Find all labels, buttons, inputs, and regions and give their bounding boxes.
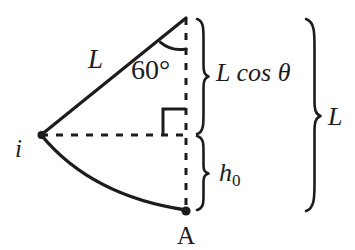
pendulum-swing-arc bbox=[42, 136, 186, 210]
label-h0-subscript: 0 bbox=[232, 171, 241, 190]
right-angle-marker bbox=[162, 109, 187, 134]
label-string-length-L: L bbox=[88, 46, 103, 73]
label-h0: h0 bbox=[219, 160, 241, 189]
label-pivot-i: i bbox=[15, 136, 22, 161]
label-total-length-L: L bbox=[328, 104, 342, 130]
angle-arc-60 bbox=[161, 42, 187, 49]
figure-canvas bbox=[0, 0, 355, 250]
label-angle-60-degrees: 60° bbox=[131, 56, 170, 84]
label-lowest-point-a: A bbox=[177, 223, 195, 248]
brace-total-l bbox=[306, 19, 321, 211]
brace-h0 bbox=[197, 136, 209, 210]
brace-l-cos-theta bbox=[197, 19, 209, 134]
label-h0-base: h bbox=[219, 158, 232, 187]
label-l-cos-theta: L cos θ bbox=[216, 60, 290, 86]
lowest-point-dot bbox=[181, 206, 190, 215]
pendulum-geometry-figure: L 60° i A L cos θ h0 L bbox=[0, 0, 355, 250]
pivot-point-dot bbox=[38, 131, 46, 139]
